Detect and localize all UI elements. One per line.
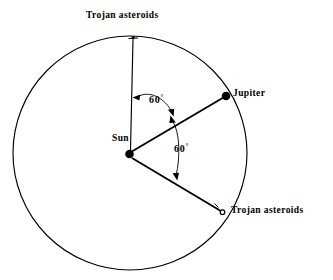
angle-arc-lower-end-arrowhead bbox=[173, 173, 180, 181]
label-angle-upper: 60° bbox=[149, 94, 163, 105]
angle-arc-upper-start-arrowhead bbox=[133, 94, 141, 100]
label-angle-lower-degree-symbol: ° bbox=[186, 142, 189, 150]
angle-arc-upper-end-arrowhead bbox=[168, 109, 174, 117]
trojan-leading-point-marker bbox=[132, 36, 135, 39]
jupiter-marker bbox=[222, 92, 231, 101]
label-angle-upper-degree-symbol: ° bbox=[161, 93, 164, 101]
trojan-asteroid-diagram: Trojan asteroids Jupiter Trojan asteroid… bbox=[0, 0, 333, 280]
trojan-trailing-marker bbox=[220, 210, 225, 215]
label-sun: Sun bbox=[112, 134, 129, 144]
orbit-diagram-svg bbox=[0, 0, 333, 280]
label-angle-lower-value: 60 bbox=[174, 143, 186, 154]
label-trojan-asteroids-trailing: Trojan asteroids bbox=[231, 206, 304, 216]
label-angle-lower: 60° bbox=[174, 143, 188, 154]
sun-marker bbox=[125, 150, 134, 159]
label-trojan-asteroids-leading: Trojan asteroids bbox=[86, 11, 159, 21]
angle-arc-lower-start-arrowhead bbox=[169, 116, 175, 124]
radial-line-sun-to-trojan-trailing bbox=[132, 158, 223, 212]
label-angle-upper-value: 60 bbox=[149, 94, 161, 105]
label-jupiter: Jupiter bbox=[233, 89, 265, 99]
radial-line-sun-to-trojan-leading bbox=[131, 39, 134, 150]
